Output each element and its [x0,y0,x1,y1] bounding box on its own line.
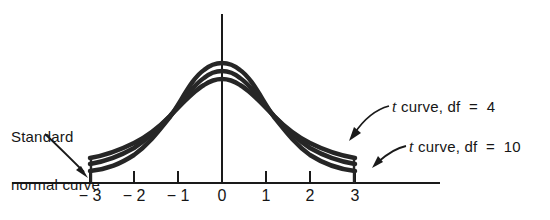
tick-label-zero: 0 [218,188,227,204]
t-curve-df-10-label-text: curve, df = 10 [414,138,521,155]
arrow-to-t-curve-df-10 [372,146,406,168]
tick-label-minus-2: − 2 [123,188,146,204]
tick-label-minus-1: − 1 [167,188,190,204]
tick-label-plus-3: 3 [351,188,360,204]
axis-ticks [90,166,355,183]
t-curve-df-10-label: t curve, df = 10 [409,139,521,155]
standard-normal-curve-label-line1: Standard [11,129,100,145]
t-distribution-figure: Standard normal curve t curve, df = 4 t … [0,0,550,220]
t-curve-df-4-label-text: curve, df = 4 [397,98,496,115]
t-curve-df-4-label: t curve, df = 4 [392,99,495,115]
arrow-to-t-curve-df-4 [349,106,389,141]
tick-label-minus-3: − 3 [79,188,102,204]
tick-label-plus-2: 2 [306,188,315,204]
tick-label-plus-1: 1 [262,188,271,204]
